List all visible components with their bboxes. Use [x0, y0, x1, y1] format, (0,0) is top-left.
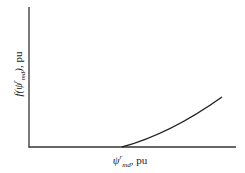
- x-axis-label: ψrmd, pu: [100, 153, 160, 169]
- y-axis-label: f(ψrmd), pu: [11, 29, 25, 119]
- function-curve: [122, 97, 222, 147]
- chart-plot-area: [0, 0, 245, 173]
